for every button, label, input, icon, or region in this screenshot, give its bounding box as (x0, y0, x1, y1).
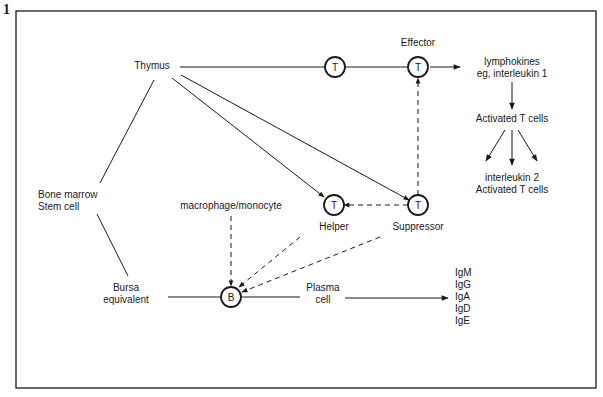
thymus-to-helper-arrow (172, 78, 324, 197)
lymphokines-label: lymphokines (484, 56, 540, 67)
cell-label: cell (315, 294, 330, 305)
suppressor-t-cell-letter: T (415, 200, 421, 211)
helper-label: Helper (319, 221, 349, 232)
immune-system-diagram: T T T T B Thymus Effector lymphokines eg… (0, 0, 603, 397)
macrophage-label: macrophage/monocyte (180, 200, 282, 211)
ige-label: IgE (455, 315, 470, 326)
igm-label: IgM (455, 267, 472, 278)
plasma-label: Plasma (306, 282, 340, 293)
bursa-label: Bursa (113, 282, 140, 293)
equivalent-label: equivalent (103, 294, 149, 305)
suppressor-label: Suppressor (392, 221, 444, 232)
thymus-to-bone-marrow-line (100, 80, 154, 183)
activated-branch-right-arrow (518, 130, 537, 161)
thymus-label: Thymus (134, 60, 170, 71)
helper-to-b-dashed-arrow (239, 237, 300, 287)
stem-cell-label: Stem cell (38, 201, 79, 212)
interleukin1-label: eg, interleukin 1 (477, 68, 548, 79)
activated-t-cells-label: Activated T cells (476, 113, 548, 124)
bone-marrow-label: Bone marrow (38, 189, 98, 200)
effector-t-cell-letter: T (415, 62, 421, 73)
stem-cell-to-bursa-line (97, 214, 128, 276)
activated-branch-left-arrow (486, 130, 505, 161)
igd-label: IgD (455, 303, 471, 314)
igg-label: IgG (455, 279, 471, 290)
interleukin2-label: interleukin 2 (485, 172, 539, 183)
interleukin2-activated-label: Activated T cells (476, 184, 548, 195)
iga-label: IgA (455, 291, 470, 302)
helper-t-cell-letter: T (331, 200, 337, 211)
b-cell-letter: B (228, 292, 235, 303)
thymus-to-suppressor-arrow (181, 75, 409, 200)
effector-label: Effector (401, 37, 436, 48)
t-cell-letter: T (332, 62, 338, 73)
